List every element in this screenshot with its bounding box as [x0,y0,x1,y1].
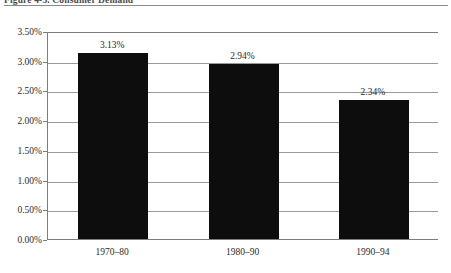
y-axis-tick-label: 2.50% [0,86,42,96]
bar [78,53,148,239]
y-axis-tick-mark [43,210,47,211]
plot-area [47,32,438,240]
y-axis-tick-label: 3.50% [0,27,42,37]
x-axis-tick-label: 1970–80 [62,247,162,257]
y-axis-tick-mark [43,121,47,122]
x-axis-tick-label: 1980–90 [193,247,293,257]
bar [339,100,409,239]
bar-value-label: 2.94% [203,51,283,61]
bar [209,64,279,239]
y-axis-tick-label: 1.50% [0,146,42,156]
y-axis-tick-mark [43,62,47,63]
y-axis-tick-mark [43,151,47,152]
bar-value-label: 2.34% [333,87,413,97]
title-divider [4,5,448,6]
y-axis-tick-mark [43,240,47,241]
y-axis-tick-mark [43,32,47,33]
chart-figure: Figure 4-3. Consumer Demand 3.50%3.00%2.… [0,0,451,273]
y-axis-tick-mark [43,181,47,182]
y-axis-tick-label: 1.00% [0,176,42,186]
y-axis-tick-label: 0.00% [0,235,42,245]
bar-value-label: 3.13% [72,40,152,50]
y-axis-tick-label: 3.00% [0,57,42,67]
y-axis-tick-label: 2.00% [0,116,42,126]
y-axis-tick-mark [43,91,47,92]
x-axis-tick-label: 1990–94 [323,247,423,257]
y-axis-tick-label: 0.50% [0,205,42,215]
